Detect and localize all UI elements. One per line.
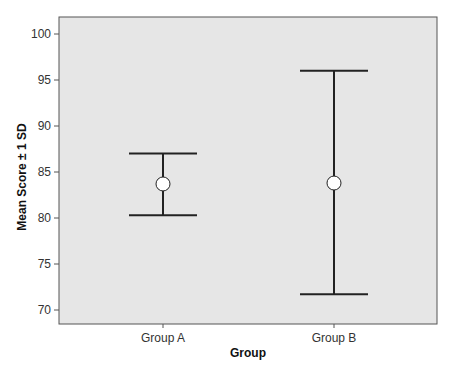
y-tick-label: 100 (31, 27, 51, 41)
mean-marker (156, 177, 170, 191)
y-tick-label: 85 (38, 165, 52, 179)
y-tick-label: 75 (38, 257, 52, 271)
x-axis: Group AGroup B (141, 324, 356, 345)
y-axis: 707580859095100 (31, 27, 59, 317)
error-bar-chart: 707580859095100 Group AGroup B Group Mea… (0, 0, 455, 376)
y-tick-label: 95 (38, 73, 52, 87)
y-tick-label: 80 (38, 211, 52, 225)
y-axis-title: Mean Score ± 1 SD (15, 123, 29, 231)
x-axis-title: Group (230, 346, 266, 360)
mean-marker (327, 176, 341, 190)
x-tick-label: Group A (141, 331, 185, 345)
plot-area (59, 17, 437, 324)
y-tick-label: 70 (38, 303, 52, 317)
x-tick-label: Group B (312, 331, 357, 345)
y-tick-label: 90 (38, 119, 52, 133)
